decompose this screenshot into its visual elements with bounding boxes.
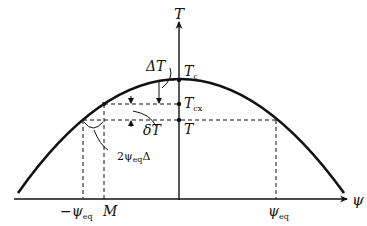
- delta-t-cap-label: ΔT: [145, 58, 167, 74]
- diagram-canvas: T ψ Tc Tcx T ΔT δT 2ψeqΔ −ψeq M ψeq: [0, 0, 367, 226]
- t-axis-label: T: [174, 5, 185, 23]
- m-label: M: [102, 203, 118, 219]
- tc-label: Tc: [184, 63, 198, 81]
- psi-axis-label: ψ: [352, 191, 364, 209]
- delta-t-small-label: δT: [143, 122, 162, 138]
- t-level-label: T: [184, 121, 195, 137]
- psi-eq-label: ψeq: [268, 203, 289, 221]
- neg-psi-eq-label: −ψeq: [60, 203, 93, 221]
- tcx-label: Tcx: [184, 95, 203, 113]
- coexistence-curve: [18, 79, 344, 193]
- width-annotation: 2ψeqΔ: [117, 150, 150, 164]
